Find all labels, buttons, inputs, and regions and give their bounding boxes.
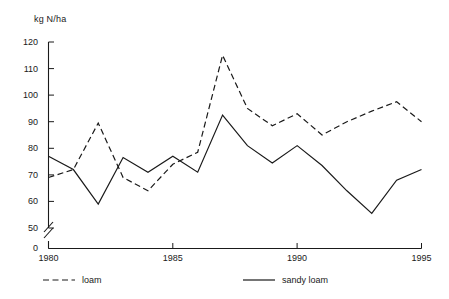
- y-axis-tick-label-60: 60: [8, 196, 38, 206]
- y-axis-ticks: [49, 42, 55, 228]
- data-series-group: [49, 55, 422, 213]
- y-axis-tick-label-70: 70: [8, 170, 38, 180]
- x-axis-tick-label-1990: 1990: [277, 253, 317, 263]
- x-axis-tick-label-1980: 1980: [29, 253, 69, 263]
- x-axis-tick-label-1985: 1985: [153, 253, 193, 263]
- x-axis-ticks: [49, 243, 422, 249]
- x-axis-tick-label-1995: 1995: [402, 253, 442, 263]
- axes-group: [44, 42, 422, 249]
- y-axis-tick-label-80: 80: [8, 143, 38, 153]
- series-line-loam: [49, 55, 422, 191]
- chart-container: kg N/ha: [0, 0, 449, 299]
- y-axis-tick-label-100: 100: [8, 90, 38, 100]
- y-axis-tick-label-90: 90: [8, 117, 38, 127]
- legend-label-loam: loam: [82, 275, 102, 285]
- y-axis-tick-label-zero: 0: [8, 243, 38, 253]
- series-line-sandy-loam: [49, 115, 422, 213]
- legend-label-sandy-loam: sandy loam: [282, 275, 328, 285]
- y-axis-tick-label-50: 50: [8, 223, 38, 233]
- y-axis-tick-label-120: 120: [8, 37, 38, 47]
- y-axis-tick-label-110: 110: [8, 64, 38, 74]
